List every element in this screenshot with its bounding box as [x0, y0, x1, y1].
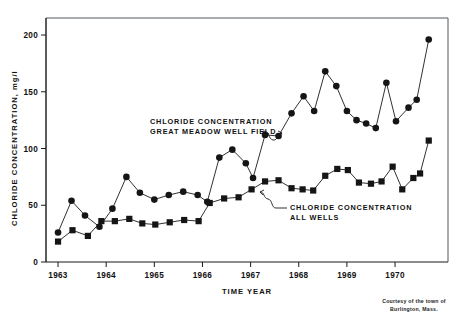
data-point-marker: [353, 117, 360, 124]
data-point-marker: [363, 120, 370, 127]
data-point-marker: [310, 187, 316, 193]
data-point-marker: [248, 186, 254, 192]
data-point-marker: [151, 196, 158, 203]
data-point-marker: [426, 137, 432, 143]
annotation-great-meadow: CHLORIDE CONCENTRATION GREAT MEADOW WELL…: [150, 117, 282, 140]
x-axis-title: TIME YEAR: [222, 287, 272, 296]
chart-figure: 050100150200 196319641965196619671968196…: [0, 0, 469, 329]
data-point-marker: [333, 83, 340, 90]
annotation-great-meadow-line1: CHLORIDE CONCENTRATION: [150, 117, 272, 126]
data-point-marker: [405, 104, 412, 111]
data-point-marker: [137, 189, 144, 196]
data-point-marker: [55, 229, 62, 236]
series-path: [58, 141, 429, 242]
x-axis: 19631964196519661967196819691970: [48, 262, 405, 280]
data-point-marker: [300, 93, 307, 100]
annotation-all-wells: CHLORIDE CONCENTRATION ALL WELLS: [260, 190, 412, 222]
data-point-marker: [139, 220, 145, 226]
data-point-marker: [196, 218, 202, 224]
data-point-marker: [399, 186, 405, 192]
x-tick-label: 1965: [145, 271, 165, 280]
y-tick-label: 150: [23, 88, 38, 97]
data-point-marker: [311, 108, 318, 115]
y-axis-title: CHLORIDE CONCENTRATION, mg/l: [10, 70, 19, 226]
data-point-marker: [96, 224, 103, 231]
data-point-marker: [425, 36, 432, 43]
data-point-marker: [413, 96, 420, 103]
data-point-marker: [235, 194, 241, 200]
chloride-concentration-chart: 050100150200 196319641965196619671968196…: [0, 0, 469, 329]
data-point-marker: [378, 178, 384, 184]
data-point-marker: [334, 166, 340, 172]
credit-note: Courtesy of the town of Burlington, Mass…: [382, 298, 446, 312]
data-point-marker: [383, 79, 390, 86]
data-point-marker: [109, 205, 116, 212]
data-point-marker: [356, 179, 362, 185]
data-point-marker: [126, 216, 132, 222]
data-point-marker: [262, 178, 268, 184]
data-point-marker: [216, 154, 223, 161]
data-point-marker: [417, 170, 423, 176]
annotation-all-wells-line1: CHLORIDE CONCENTRATION: [290, 203, 412, 212]
data-point-marker: [275, 177, 281, 183]
data-point-marker: [165, 192, 172, 199]
data-point-marker: [243, 160, 250, 167]
data-point-marker: [68, 197, 75, 204]
annotation-great-meadow-line2: GREAT MEADOW WELL FIELD: [150, 127, 276, 136]
data-point-marker: [221, 195, 227, 201]
plot-frame: [46, 18, 448, 262]
data-point-marker: [123, 174, 130, 181]
data-point-marker: [300, 186, 306, 192]
data-point-marker: [322, 173, 328, 179]
data-point-marker: [372, 125, 379, 132]
data-point-marker: [55, 238, 61, 244]
x-tick-label: 1970: [385, 271, 405, 280]
credit-line-1: Courtesy of the town of: [382, 298, 446, 304]
x-tick-label: 1963: [48, 271, 68, 280]
data-point-marker: [288, 185, 294, 191]
x-tick-label: 1964: [96, 271, 116, 280]
data-point-marker: [322, 68, 329, 75]
annotation-all-wells-line2: ALL WELLS: [290, 213, 339, 222]
x-tick-label: 1966: [193, 271, 213, 280]
x-tick-label: 1967: [241, 271, 261, 280]
data-point-marker: [112, 218, 118, 224]
annotation-all-wells-leader: [260, 192, 287, 208]
x-tick-label: 1968: [289, 271, 309, 280]
data-point-marker: [152, 221, 158, 227]
data-series-group: [55, 36, 432, 244]
data-point-marker: [98, 218, 104, 224]
data-point-marker: [345, 167, 351, 173]
data-point-marker: [85, 233, 91, 239]
data-point-marker: [194, 192, 201, 199]
data-point-marker: [393, 118, 400, 125]
series-all-wells: [55, 137, 432, 244]
y-tick-label: 100: [23, 145, 38, 154]
data-point-marker: [207, 200, 213, 206]
data-point-marker: [82, 212, 89, 219]
credit-line-2: Burlington, Mass.: [390, 306, 438, 312]
data-point-marker: [288, 110, 295, 117]
data-point-marker: [410, 175, 416, 181]
data-point-marker: [69, 227, 75, 233]
x-tick-label: 1969: [337, 271, 357, 280]
y-axis: 050100150200: [23, 31, 46, 267]
data-point-marker: [390, 164, 396, 170]
data-point-marker: [344, 108, 351, 115]
data-point-marker: [250, 175, 257, 182]
data-point-marker: [167, 219, 173, 225]
y-tick-label: 50: [28, 201, 38, 210]
y-tick-label: 0: [33, 258, 38, 267]
data-point-marker: [229, 146, 236, 153]
data-point-marker: [181, 217, 187, 223]
y-tick-label: 200: [23, 31, 38, 40]
data-point-marker: [180, 188, 187, 195]
data-point-marker: [368, 181, 374, 187]
